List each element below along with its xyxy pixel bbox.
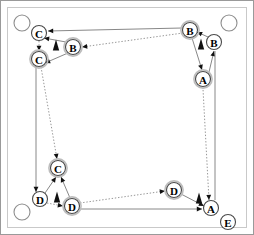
node-a-right-label: A [199, 74, 207, 86]
node-b-top-right[interactable]: B [181, 21, 199, 39]
node-c-lower-left[interactable]: C [49, 159, 67, 177]
node-d-right-label: D [170, 185, 178, 197]
node-d-right[interactable]: D [165, 181, 183, 199]
node-d-inner-label: D [68, 201, 76, 213]
diagram-svg: CBCBBACDDDAE [0, 0, 254, 235]
node-e-bottom[interactable]: E [221, 215, 236, 230]
node-d-left[interactable]: D [33, 192, 48, 207]
node-b-top-right-label: B [186, 25, 194, 37]
node-e-bottom-label: E [224, 217, 231, 229]
node-b-right-label: B [210, 37, 218, 49]
corner-top-left-circle-icon [14, 15, 30, 31]
node-c-lower-left-label: C [54, 163, 62, 175]
node-c-top-label: C [35, 28, 43, 40]
node-d-inner[interactable]: D [63, 197, 81, 215]
node-a-right[interactable]: A [194, 70, 212, 88]
node-c-upper-left[interactable]: C [30, 50, 48, 68]
corner-bottom-left-circle-icon [14, 204, 30, 220]
node-a-bottom-label: A [207, 203, 215, 215]
diagram-canvas: CBCBBACDDDAE [0, 0, 254, 235]
node-d-left-label: D [36, 194, 44, 206]
node-c-upper-left-label: C [35, 54, 43, 66]
node-b-top-inner[interactable]: B [64, 38, 82, 56]
node-c-top[interactable]: C [32, 26, 47, 41]
corner-top-right-circle-icon [221, 15, 237, 31]
node-b-right[interactable]: B [207, 35, 222, 50]
node-a-bottom[interactable]: A [204, 201, 219, 216]
node-b-top-inner-label: B [69, 42, 77, 54]
